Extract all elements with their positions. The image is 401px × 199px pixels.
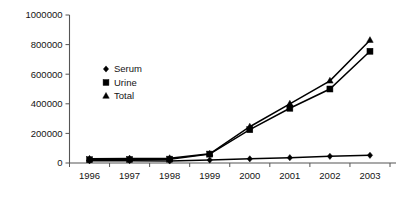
y-axis-tick-labels: 02000004000006000008000001000000 [26,9,63,168]
chart-svg: 02000004000006000008000001000000 1996199… [0,0,401,199]
legend-label: Total [114,90,134,101]
marker-triangle [367,37,373,43]
marker-diamond [287,155,292,161]
legend-label: Serum [114,63,142,74]
x-tick-label: 2000 [239,170,260,181]
x-tick-label: 2002 [319,170,340,181]
legend-item-urine: Urine [103,77,137,88]
x-tick-label: 1996 [79,170,100,181]
legend-item-serum: Serum [103,63,142,74]
y-tick-label: 600000 [31,69,63,80]
marker-square [367,48,373,54]
x-tick-label: 2003 [359,170,380,181]
legend-item-total: Total [103,90,134,101]
y-tick-label: 400000 [31,98,63,109]
marker-diamond [103,66,108,72]
x-tick-label: 1998 [159,170,180,181]
marker-square [327,86,333,92]
marker-square [103,80,109,86]
x-axis-ticks [70,163,391,167]
y-tick-label: 200000 [31,128,63,139]
marker-triangle [103,93,109,99]
x-tick-label: 1999 [199,170,220,181]
marker-diamond [327,153,332,159]
marker-diamond [247,156,252,162]
y-tick-label: 0 [57,157,62,168]
x-axis-tick-labels: 19961997199819992000200120022003 [79,170,381,181]
y-axis-ticks [66,15,70,163]
x-tick-label: 1997 [119,170,140,181]
y-tick-label: 1000000 [26,9,63,20]
marker-diamond [367,152,372,158]
line-chart: 02000004000006000008000001000000 1996199… [0,0,401,199]
x-tick-label: 2001 [279,170,300,181]
y-tick-label: 800000 [31,39,63,50]
chart-legend: SerumUrineTotal [103,63,142,101]
legend-label: Urine [114,77,137,88]
marker-diamond [207,157,212,163]
